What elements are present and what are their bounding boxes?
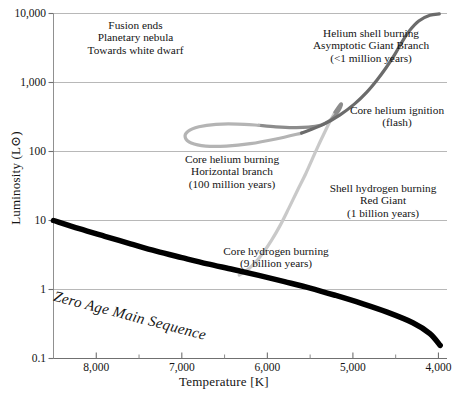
- y-tick-label: 10,000: [0, 8, 46, 20]
- y-tick-label: 100: [0, 146, 46, 158]
- x-axis-label: Temperature [K]: [0, 374, 448, 390]
- y-tick-label: 0.1: [0, 353, 46, 365]
- y-axis-label: Luminosity (L⊙): [8, 88, 24, 268]
- y-tick-label: 1: [0, 284, 46, 296]
- annotation-fusion-ends: Fusion endsPlanetary nebulaTowards white…: [58, 19, 213, 56]
- annotation-line: Helium shell burning: [298, 27, 444, 39]
- annotation-line: Fusion ends: [58, 19, 213, 31]
- annotation-line: Core hydrogen burning: [203, 245, 349, 257]
- x-tick-label: 6,000: [232, 362, 302, 374]
- y-tick-label: 1,000: [0, 77, 46, 89]
- x-tick-label: 5,000: [318, 362, 388, 374]
- curve-zero-age-main-sequence: [54, 221, 441, 346]
- annotation-line: Towards white dwarf: [58, 44, 213, 56]
- annotation-line: Horizontal branch: [166, 165, 298, 177]
- annotation-line: Red Giant: [320, 194, 446, 206]
- annotation-core-hydrogen-burning: Core hydrogen burning(9 billion years): [203, 245, 349, 270]
- annotation-line: Core helium ignition: [347, 104, 447, 116]
- annotation-line: (flash): [347, 116, 447, 128]
- x-tick-label: 4,000: [403, 362, 456, 374]
- y-tick-label: 10: [0, 215, 46, 227]
- annotation-helium-flash: Core helium ignition(flash): [347, 104, 447, 129]
- annotation-line: (<1 million years): [298, 52, 444, 64]
- x-tick-label: 7,000: [147, 362, 217, 374]
- annotation-line: Planetary nebula: [58, 31, 213, 43]
- annotation-line: Shell hydrogen burning: [320, 182, 446, 194]
- annotation-line: (9 billion years): [203, 257, 349, 269]
- x-tick-label: 8,000: [61, 362, 131, 374]
- annotation-line: (100 million years): [166, 178, 298, 190]
- annotation-line: Asymptotic Giant Branch: [298, 39, 444, 51]
- annotation-red-giant: Shell hydrogen burningRed Giant(1 billio…: [320, 182, 446, 219]
- annotation-horizontal-branch: Core helium burningHorizontal branch(100…: [166, 153, 298, 190]
- annotation-line: (1 billion years): [320, 207, 446, 219]
- annotation-asymptotic-giant-branch: Helium shell burningAsymptotic Giant Bra…: [298, 27, 444, 64]
- annotation-line: Core helium burning: [166, 153, 298, 165]
